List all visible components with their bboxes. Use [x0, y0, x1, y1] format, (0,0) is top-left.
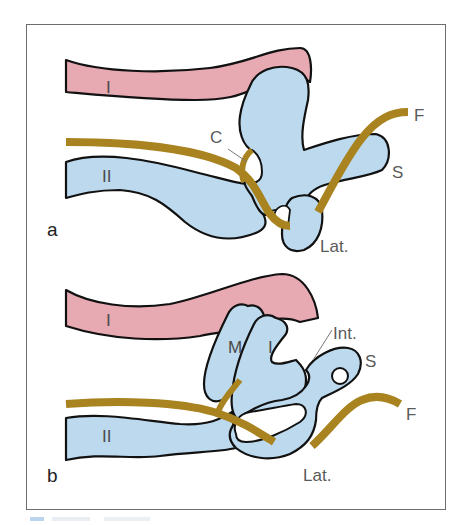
panel-b-label-II: II — [102, 427, 111, 446]
panel-b-label-Int: Int. — [333, 324, 357, 343]
panel-b-cord-right — [312, 397, 400, 446]
panel-b-label-S: S — [365, 352, 376, 371]
panel-b-label-I: I — [106, 311, 111, 330]
panel-b-label-F: F — [406, 405, 416, 424]
diagram-canvas: I II C F S Lat. a I II M I Int. S — [0, 0, 463, 525]
panel-b-letter: b — [47, 465, 58, 486]
panel-a-letter: a — [47, 219, 58, 240]
panel-a-label-I: I — [106, 78, 111, 97]
panel-a-label-S: S — [392, 163, 403, 182]
panel-b-label-I-inner: I — [268, 338, 273, 357]
panel-b-label-M: M — [228, 338, 242, 357]
caption-fragment — [30, 517, 150, 521]
panel-a-label-C: C — [210, 128, 222, 147]
panel-b-label-Lat: Lat. — [303, 466, 331, 485]
panel-a: I II C F S Lat. a — [47, 48, 424, 256]
panel-a-label-II: II — [102, 167, 111, 186]
panel-a-label-Lat: Lat. — [320, 237, 348, 256]
panel-a-label-F: F — [414, 106, 424, 125]
panel-b-S-hole — [332, 368, 348, 384]
panel-b: I II M I Int. S F Lat. b — [47, 274, 416, 486]
panel-b-structure-II — [66, 412, 236, 460]
